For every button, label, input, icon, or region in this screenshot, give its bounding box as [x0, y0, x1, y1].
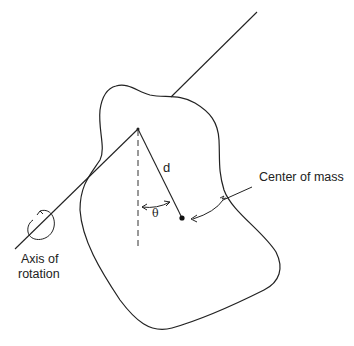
label-theta: θ: [152, 207, 159, 220]
rotation-arrowhead: [37, 211, 43, 215]
label-center-of-mass: Center of mass: [259, 170, 344, 185]
label-d: d: [163, 160, 170, 175]
distance-line-d: [138, 129, 182, 218]
axis-line-lower: [15, 129, 138, 249]
center-of-mass-leader: [193, 187, 252, 219]
center-of-mass-dot: [179, 215, 184, 220]
axis-line-upper: [171, 12, 257, 97]
label-axis-line2: rotation: [18, 267, 60, 282]
rigid-body-outline: [80, 85, 280, 329]
label-axis-line1: Axis of: [21, 252, 59, 267]
leader-break-mark: [220, 196, 226, 199]
